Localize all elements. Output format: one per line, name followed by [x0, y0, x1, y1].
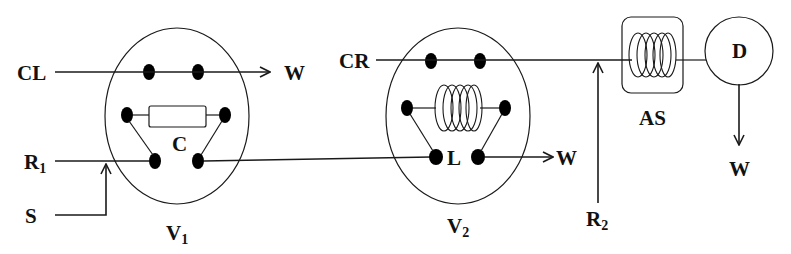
valve-v2-body: [386, 28, 530, 204]
cr-label: CR: [339, 49, 370, 73]
detector-d: D: [705, 17, 773, 85]
r2-label: R2: [586, 207, 608, 233]
v2-port-4: [499, 100, 511, 116]
v1-port-5: [149, 153, 161, 169]
cl-label: CL: [17, 61, 46, 85]
v2-port-1: [425, 53, 437, 69]
diagram-canvas: C CL W R1 S V1 L: [0, 0, 791, 254]
component-l-coil-icon: [435, 85, 482, 131]
v2-port-6: [471, 149, 485, 165]
r1-label: R1: [24, 150, 46, 176]
component-l-label: L: [447, 146, 461, 170]
v2-port-3: [401, 100, 413, 116]
v1-port-6: [192, 153, 204, 169]
as-label: AS: [639, 106, 666, 130]
w-top-label: W: [284, 61, 305, 85]
v1-port-3: [121, 107, 133, 123]
v2-label: V2: [447, 214, 469, 240]
component-c-label: C: [172, 132, 187, 156]
component-as: [622, 17, 706, 93]
w-right-label: W: [729, 157, 750, 181]
v1-label: V1: [166, 221, 188, 247]
detector-d-label: D: [732, 39, 747, 63]
component-c-icon: [149, 106, 206, 127]
v1-port-4: [219, 107, 231, 123]
v1-to-v2-line: [204, 157, 431, 161]
v2-port-5: [429, 149, 443, 165]
s-label: S: [25, 204, 37, 228]
as-coil-icon: [629, 33, 676, 77]
valve-v2: L: [386, 28, 530, 204]
s-flow-line: [55, 164, 106, 215]
w-mid-label: W: [556, 146, 577, 170]
v2-port-2: [474, 53, 486, 69]
valve-v1: C: [105, 28, 249, 204]
